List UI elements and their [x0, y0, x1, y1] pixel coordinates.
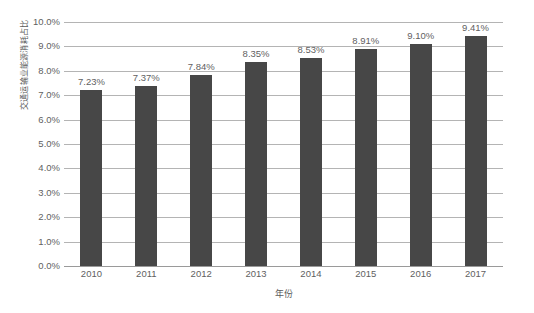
bar-value-label: 7.23%: [78, 76, 105, 87]
x-axis-tick-label: 2016: [410, 268, 431, 280]
x-axis-tick-label: 2015: [355, 268, 376, 280]
y-axis-tick-label: 10.0%: [14, 17, 60, 27]
y-axis-tick-label: 8.0%: [14, 66, 60, 76]
plot-area: 7.23%7.37%7.84%8.35%8.53%8.91%9.10%9.41%: [64, 22, 503, 266]
x-axis-tick-label: 2014: [300, 268, 321, 280]
bar-group: 8.53%: [284, 22, 339, 266]
y-axis-tick-label: 3.0%: [14, 188, 60, 198]
bar-group: 7.23%: [64, 22, 119, 266]
x-axis-tick-label: 2017: [465, 268, 486, 280]
bar-group: 8.35%: [229, 22, 284, 266]
x-axis-tick-labels: 20102011201220132014201520162017: [64, 268, 503, 282]
bars-layer: 7.23%7.37%7.84%8.35%8.53%8.91%9.10%9.41%: [64, 22, 503, 266]
y-axis-tick-label: 1.0%: [14, 237, 60, 247]
bar-group: 8.91%: [338, 22, 393, 266]
y-axis-tick-label: 6.0%: [14, 115, 60, 125]
bar-value-label: 7.37%: [133, 72, 160, 83]
bar-value-label: 9.10%: [407, 30, 434, 41]
x-axis-tick-label: 2010: [81, 268, 102, 280]
y-axis-tick-label: 0.0%: [14, 261, 60, 271]
x-axis-line: [64, 266, 503, 267]
bar-group: 9.41%: [448, 22, 503, 266]
y-axis-tick-labels: 10.0%9.0%8.0%7.0%6.0%5.0%4.0%3.0%2.0%1.0…: [0, 0, 60, 313]
bar-value-label: 9.41%: [462, 22, 489, 33]
bar-group: 9.10%: [393, 22, 448, 266]
bar-group: 7.37%: [119, 22, 174, 266]
bar-value-label: 8.35%: [243, 48, 270, 59]
bar[interactable]: [355, 49, 377, 266]
y-axis-tick-label: 9.0%: [14, 41, 60, 51]
bar-value-label: 8.53%: [297, 44, 324, 55]
bar[interactable]: [190, 75, 212, 266]
bar[interactable]: [465, 36, 487, 266]
bar[interactable]: [245, 62, 267, 266]
y-axis-tick-label: 7.0%: [14, 90, 60, 100]
bar-group: 7.84%: [174, 22, 229, 266]
bar[interactable]: [300, 58, 322, 266]
x-axis-tick-label: 2012: [191, 268, 212, 280]
bar[interactable]: [80, 90, 102, 266]
bar-chart: 交通运输业能源消耗占比 10.0%9.0%8.0%7.0%6.0%5.0%4.0…: [0, 0, 534, 313]
x-axis-tick-label: 2013: [245, 268, 266, 280]
bar-value-label: 7.84%: [188, 61, 215, 72]
y-axis-tick-label: 5.0%: [14, 139, 60, 149]
bar-value-label: 8.91%: [352, 35, 379, 46]
y-axis-tick-label: 4.0%: [14, 163, 60, 173]
x-axis-title: 年份: [64, 288, 503, 300]
bar[interactable]: [135, 86, 157, 266]
y-axis-tick-label: 2.0%: [14, 212, 60, 222]
x-axis-tick-label: 2011: [136, 268, 156, 280]
bar[interactable]: [410, 44, 432, 266]
